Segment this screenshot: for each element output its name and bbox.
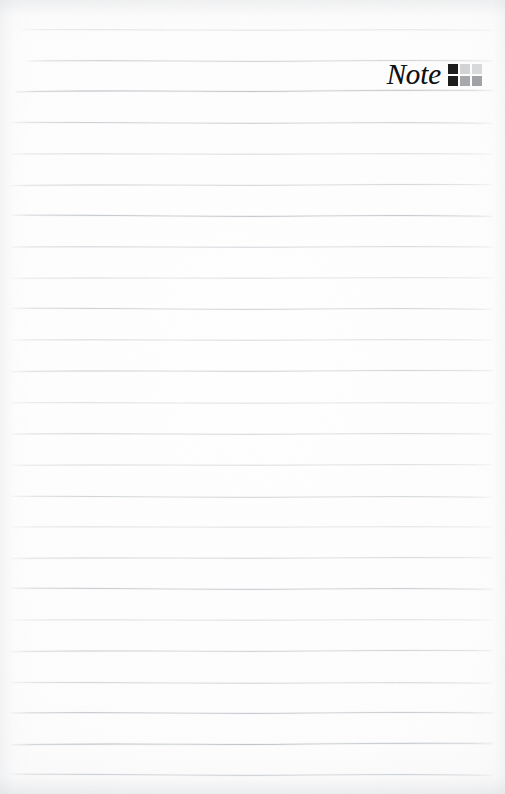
logo-cell-r2c2 <box>460 76 470 86</box>
note-logo-grid-icon <box>448 64 482 86</box>
logo-cell-r2c1 <box>448 76 458 86</box>
note-brand: Note <box>366 56 482 92</box>
logo-cell-r1c1 <box>448 64 458 74</box>
logo-cell-r1c2 <box>460 64 470 74</box>
note-wordmark: Note <box>387 60 441 89</box>
logo-cell-r1c3 <box>472 64 482 74</box>
paper-background <box>0 0 505 794</box>
logo-cell-r2c3 <box>472 76 482 86</box>
notepad-page: Note <box>0 0 505 794</box>
